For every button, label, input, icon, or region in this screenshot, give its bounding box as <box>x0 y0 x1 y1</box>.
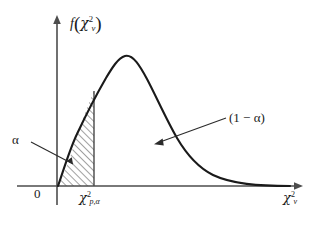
x-axis-label: χ2v <box>283 191 297 204</box>
y-axis-chi-symbol: χ <box>80 15 88 31</box>
alpha-annotation-arrow <box>31 142 74 164</box>
origin-label: 0 <box>34 187 41 200</box>
x-axis-chi-symbol: χ <box>283 190 291 205</box>
y-axis-label: f(χ2v) <box>70 14 102 33</box>
chi-square-distribution-figure: f(χ2v) 0 χ2p,α χ2v α (1 − α) <box>0 0 312 227</box>
y-axis <box>53 15 61 205</box>
x-tick-chi-symbol: χ <box>79 190 87 205</box>
x-axis-arrowhead <box>294 182 303 190</box>
one-minus-alpha-annotation-arrow <box>154 118 226 146</box>
one-minus-alpha-label: (1 − α) <box>229 111 265 124</box>
x-axis-subscript: v <box>293 197 297 206</box>
alpha-label: α <box>12 133 19 146</box>
critical-value-tick-label: χ2p,α <box>79 191 100 204</box>
y-axis-arrowhead <box>53 15 61 24</box>
plot-canvas <box>0 0 312 227</box>
x-tick-subscript: p,α <box>89 197 99 206</box>
